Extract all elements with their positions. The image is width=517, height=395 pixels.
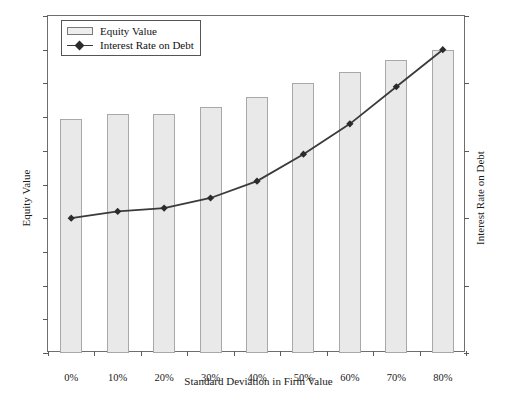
legend-item-interest-rate: Interest Rate on Debt xyxy=(67,38,194,52)
chart-container: Equity Value Interest Rate on Debt Stand… xyxy=(0,0,517,395)
bar-swatch-icon xyxy=(67,27,93,35)
interest-rate-markers xyxy=(68,46,447,222)
legend-item-equity-value: Equity Value xyxy=(67,24,194,38)
legend-label-interest-rate: Interest Rate on Debt xyxy=(100,40,194,51)
chart-legend: Equity Value Interest Rate on Debt xyxy=(61,20,201,56)
data-point-marker xyxy=(68,215,75,222)
data-point-marker xyxy=(207,194,214,201)
line-series xyxy=(48,16,466,353)
x-axis-tick-label: 80% xyxy=(413,373,473,384)
interest-rate-line xyxy=(71,50,443,219)
y-axis-left-title: Equity Value xyxy=(20,169,32,226)
data-point-marker xyxy=(253,178,260,185)
y-axis-right-title: Interest Rate on Debt xyxy=(474,151,486,245)
legend-label-equity-value: Equity Value xyxy=(100,26,157,37)
line-diamond-swatch-icon xyxy=(67,41,93,50)
x-axis-tick xyxy=(466,351,467,356)
data-point-marker xyxy=(161,204,168,211)
data-point-marker xyxy=(114,208,121,215)
plot-area: 0102030405060708090100 0%5%10%15%20%25% … xyxy=(47,15,465,352)
